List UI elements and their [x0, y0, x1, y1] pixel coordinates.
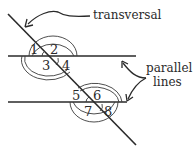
angle-label-7: 7: [84, 104, 92, 119]
transversal-label: transversal: [93, 8, 162, 22]
diagram-canvas: 1 2 3 4 5 6 7 8 transversal parallel lin…: [0, 0, 195, 154]
angle-label-2: 2: [50, 42, 58, 57]
transversal-line: [8, 14, 136, 145]
parallel-arrow-upper: [123, 63, 146, 78]
angle-label-3: 3: [42, 58, 50, 73]
transversal-arrow: [28, 12, 90, 25]
parallel-arrow-lower: [128, 78, 146, 99]
angle-label-1: 1: [30, 42, 38, 57]
angle-label-5: 5: [72, 88, 80, 103]
angle-label-4: 4: [62, 58, 70, 73]
angle-label-8: 8: [104, 104, 112, 119]
parallel-label-line1: parallel: [146, 61, 193, 75]
parallel-label-line2: lines: [153, 75, 182, 89]
angle-label-6: 6: [93, 88, 101, 103]
